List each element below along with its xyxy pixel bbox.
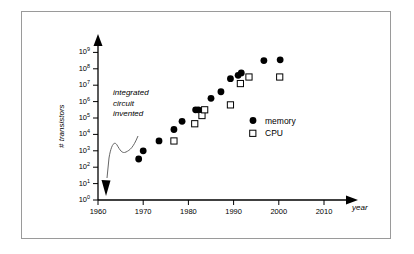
chart-plot-area: 100 101 102 103 104 105 106 107 108 109 … <box>0 0 414 254</box>
legend-marker-cpu <box>250 130 256 136</box>
legend-label-cpu: CPU <box>265 128 283 138</box>
legend-markers <box>0 0 414 254</box>
legend-label-memory: memory <box>265 116 296 126</box>
figure: 100 101 102 103 104 105 106 107 108 109 … <box>0 0 414 254</box>
legend-marker-memory <box>250 117 257 124</box>
